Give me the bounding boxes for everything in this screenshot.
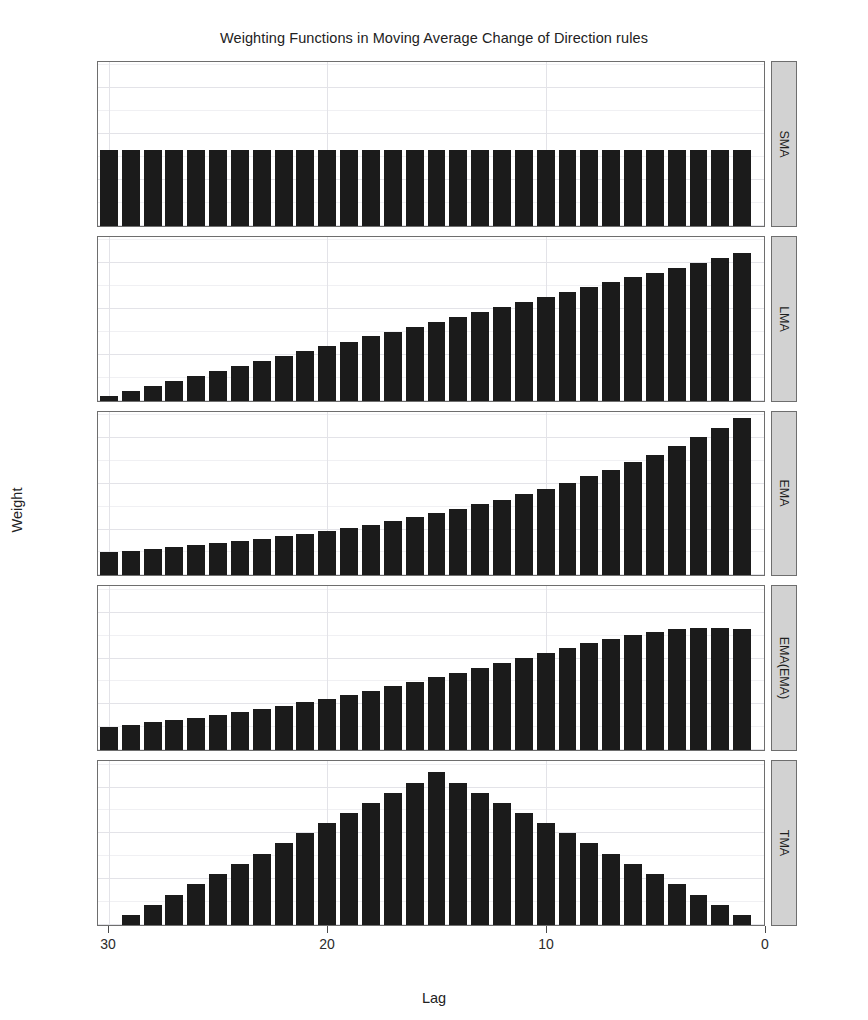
bar xyxy=(275,356,293,400)
bar xyxy=(406,517,424,575)
bar xyxy=(406,682,424,750)
bar xyxy=(406,327,424,401)
bar xyxy=(362,336,380,400)
bar xyxy=(318,531,336,575)
bar xyxy=(624,864,642,925)
bar xyxy=(646,150,664,226)
bar xyxy=(428,772,446,925)
bar xyxy=(580,150,598,226)
bar xyxy=(646,455,664,576)
bar xyxy=(122,551,140,576)
bar xyxy=(340,342,358,401)
bar xyxy=(144,549,162,575)
y-axis-tick-label: 0.00 xyxy=(97,902,98,917)
y-axis-tick-label: 0.02 xyxy=(97,857,98,872)
bar xyxy=(340,813,358,925)
facet-panel-lma: 0.000.020.040.06LMA xyxy=(97,236,797,402)
bar xyxy=(493,150,511,226)
y-axis-tick-label: 0.06 xyxy=(97,590,98,605)
bar xyxy=(449,317,467,401)
bar xyxy=(493,500,511,576)
bar xyxy=(165,720,183,750)
facet-panel-ema: 0.000.020.040.06EMA xyxy=(97,411,797,577)
y-axis-tick-label: 0.06 xyxy=(97,241,98,256)
bar xyxy=(711,258,729,401)
bar xyxy=(187,376,205,401)
bar xyxy=(624,150,642,226)
bar xyxy=(100,727,118,750)
bar xyxy=(471,668,489,750)
bar xyxy=(209,543,227,575)
bar xyxy=(624,277,642,400)
bar xyxy=(537,297,555,401)
facet-strip-text: EMA xyxy=(777,480,791,507)
bar xyxy=(362,803,380,925)
bar xyxy=(384,793,402,925)
bar xyxy=(275,536,293,575)
gridline-vertical xyxy=(764,586,765,750)
bar xyxy=(209,150,227,226)
bar xyxy=(690,150,708,226)
bar xyxy=(493,803,511,925)
bar xyxy=(318,823,336,925)
bar xyxy=(187,884,205,925)
y-axis-tick-label: 0.06 xyxy=(97,66,98,81)
bar xyxy=(668,446,686,575)
bar xyxy=(122,725,140,750)
bar xyxy=(144,905,162,925)
bar xyxy=(100,396,118,401)
bar xyxy=(231,864,249,925)
plot-area: 0.000.020.040.06 xyxy=(97,236,765,402)
facet-strip-text: TMA xyxy=(777,830,791,856)
y-axis-tick-label: 0.00 xyxy=(97,553,98,568)
bar xyxy=(449,150,467,226)
bar xyxy=(165,895,183,925)
y-axis-tick-label: 0.00 xyxy=(97,203,98,218)
bar xyxy=(668,884,686,925)
bar xyxy=(471,150,489,226)
chart-title: Weighting Functions in Moving Average Ch… xyxy=(0,30,868,46)
x-axis-label: Lag xyxy=(0,990,868,1006)
bar xyxy=(515,658,533,751)
y-axis-label-text: Weight xyxy=(9,488,25,533)
facet-strip-label: LMA xyxy=(771,236,797,402)
bar xyxy=(318,699,336,751)
bar xyxy=(515,813,533,925)
bar xyxy=(493,663,511,751)
bar xyxy=(231,712,249,750)
y-axis-tick-label: 0.00 xyxy=(97,728,98,743)
bar xyxy=(624,635,642,750)
bar-series-tma xyxy=(98,761,764,925)
bar xyxy=(122,391,140,401)
bar xyxy=(144,386,162,401)
bar xyxy=(690,628,708,750)
bar xyxy=(122,915,140,925)
bar xyxy=(296,702,314,750)
bar xyxy=(253,709,271,750)
y-axis-tick-label: 0.04 xyxy=(97,286,98,301)
bar xyxy=(231,150,249,226)
y-axis-tick-label: 0.04 xyxy=(97,461,98,476)
bar xyxy=(122,150,140,226)
x-axis-tick-label: 30 xyxy=(100,936,116,952)
bar xyxy=(471,793,489,925)
bar xyxy=(690,263,708,401)
bar xyxy=(209,371,227,401)
x-axis-tick-label: 20 xyxy=(319,936,335,952)
bar xyxy=(733,150,751,226)
bar xyxy=(602,470,620,576)
bar xyxy=(187,545,205,575)
facet-strip-text: EMA(EMA) xyxy=(777,637,791,700)
y-axis-tick-label: 0.02 xyxy=(97,332,98,347)
bar xyxy=(515,150,533,226)
bar xyxy=(209,715,227,750)
bar xyxy=(733,418,751,576)
facet-panel-emaema: 0.000.020.040.06EMA(EMA) xyxy=(97,585,797,751)
bar-series-sma xyxy=(98,62,764,226)
bar xyxy=(275,706,293,750)
gridline-vertical xyxy=(764,237,765,401)
bar xyxy=(428,322,446,401)
bar xyxy=(296,150,314,226)
x-axis-tick-mark xyxy=(108,926,109,933)
x-axis-tick-mark xyxy=(327,926,328,933)
